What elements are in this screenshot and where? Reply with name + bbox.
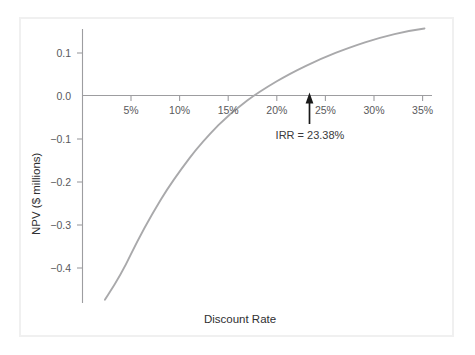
x-tick-label-6: 35% — [412, 104, 433, 116]
y-tick-label-1: 0.0 — [46, 90, 71, 102]
chart-plot-area — [0, 0, 475, 355]
x-axis-ticks — [131, 96, 423, 102]
y-tick-label-0: 0.1 — [46, 47, 71, 59]
figure-container: 0.1 0.0 −0.1 −0.2 −0.3 −0.4 5% 10% 15% 2… — [0, 0, 475, 355]
y-axis-ticks — [77, 53, 83, 268]
x-tick-label-0: 5% — [123, 104, 138, 116]
x-tick-label-3: 20% — [266, 104, 287, 116]
y-tick-label-4: −0.3 — [42, 219, 71, 231]
x-tick-label-2: 15% — [218, 104, 239, 116]
x-tick-label-1: 10% — [169, 104, 190, 116]
npv-curve — [105, 29, 425, 300]
y-tick-label-2: −0.1 — [42, 133, 71, 145]
irr-annotation-label: IRR = 23.38% — [276, 129, 345, 141]
x-tick-label-4: 25% — [315, 104, 336, 116]
irr-arrow-icon — [306, 93, 314, 125]
y-tick-label-5: −0.4 — [42, 262, 71, 274]
y-tick-label-3: −0.2 — [42, 176, 71, 188]
x-axis-title: Discount Rate — [204, 313, 276, 325]
x-tick-label-5: 30% — [363, 104, 384, 116]
y-axis-title: NPV ($ millions) — [30, 153, 42, 235]
